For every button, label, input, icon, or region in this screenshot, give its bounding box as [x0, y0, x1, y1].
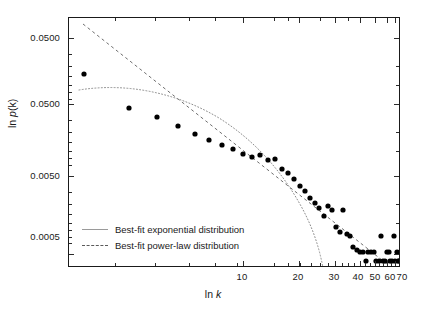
y-tick-minor [69, 54, 72, 55]
y-tick-minor [69, 223, 72, 224]
y-axis-title-prefix: ln [6, 117, 18, 128]
x-tick-minor [383, 263, 384, 266]
x-tick-minor [348, 263, 349, 266]
x-tick-major-top [335, 18, 336, 23]
y-tick-minor-right [396, 151, 399, 152]
y-tick-major-right [394, 38, 399, 39]
y-axis-title-variable: p [6, 111, 18, 117]
x-tick-minor [370, 263, 371, 266]
y-tick-major-right [394, 104, 399, 105]
x-tick-major-top [360, 18, 361, 23]
y-tick-minor [69, 142, 72, 143]
x-tick-major [360, 261, 361, 266]
x-tick-minor [328, 263, 329, 266]
data-point [321, 213, 326, 218]
y-tick-major [69, 104, 74, 105]
x-tick-minor [379, 263, 380, 266]
data-point [333, 224, 338, 229]
x-axis-title-variable: k [216, 288, 221, 300]
y-tick-label-1: 0.0500 [4, 98, 60, 109]
x-axis-title: ln k [0, 288, 426, 300]
y-tick-label-0: 0.0500 [4, 32, 60, 43]
x-tick-minor-top [348, 18, 349, 21]
y-tick-minor [69, 85, 72, 86]
data-point [340, 207, 345, 212]
y-tick-minor [69, 132, 72, 133]
y-tick-major [69, 38, 74, 39]
data-point [175, 123, 180, 128]
x-tick-label-40: 40 [349, 271, 367, 282]
y-tick-minor [69, 165, 72, 166]
x-tick-minor-top [155, 18, 156, 21]
y-tick-minor [69, 151, 72, 152]
x-tick-major [387, 261, 388, 266]
data-point [230, 146, 235, 151]
data-point [360, 249, 365, 254]
y-tick-minor-right [396, 223, 399, 224]
x-tick-major [243, 261, 244, 266]
legend-line-powerlaw-icon [82, 245, 108, 247]
x-tick-minor [115, 263, 116, 266]
data-point [329, 207, 334, 212]
x-tick-major-top [387, 18, 388, 23]
x-tick-major-top [299, 18, 300, 23]
x-tick-minor [354, 263, 355, 266]
x-tick-major-top [375, 18, 376, 23]
y-tick-major [69, 254, 74, 255]
x-tick-minor [391, 263, 392, 266]
data-point [81, 71, 86, 76]
data-point [307, 195, 312, 200]
data-point [297, 183, 302, 188]
y-tick-minor [69, 192, 72, 193]
x-tick-major-top [395, 18, 396, 23]
data-point [265, 157, 270, 162]
x-tick-minor-top [115, 18, 116, 21]
x-tick-major [395, 261, 396, 266]
data-point [386, 249, 391, 254]
data-point [316, 205, 321, 210]
y-tick-minor-right [396, 66, 399, 67]
y-tick-minor [69, 243, 72, 244]
y-tick-minor [69, 230, 72, 231]
x-tick-minor [300, 263, 301, 266]
y-tick-minor-right [396, 85, 399, 86]
data-point [240, 151, 245, 156]
x-tick-major [335, 261, 336, 266]
data-point [337, 229, 342, 234]
x-tick-minor-top [215, 18, 216, 21]
figure-container: ln p(k) ln k 0.0500 0.0500 0.0050 0.0005… [0, 0, 426, 310]
data-point [285, 170, 290, 175]
legend-label-powerlaw: Best-fit power-law distribution [115, 240, 239, 251]
y-tick-minor [69, 120, 72, 121]
x-tick-major-top [243, 18, 244, 23]
x-tick-major [375, 261, 376, 266]
x-tick-minor-top [288, 18, 289, 21]
data-point [312, 200, 317, 205]
x-tick-minor [189, 263, 190, 266]
x-tick-minor [274, 263, 275, 266]
x-tick-label-10: 10 [232, 271, 252, 282]
x-tick-minor [215, 263, 216, 266]
y-tick-minor [69, 76, 72, 77]
x-tick-label-20: 20 [288, 271, 308, 282]
y-tick-major-right [394, 176, 399, 177]
legend-line-exponential-icon [82, 229, 108, 231]
x-tick-minor [320, 263, 321, 266]
y-tick-minor [69, 158, 72, 159]
x-tick-minor [288, 263, 289, 266]
legend-item-powerlaw: Best-fit power-law distribution [82, 240, 244, 251]
x-tick-minor [342, 263, 343, 266]
data-point [126, 105, 131, 110]
data-point [378, 233, 383, 238]
y-tick-label-3: 0.0005 [4, 231, 60, 242]
data-point [249, 154, 254, 159]
y-tick-minor [69, 204, 72, 205]
data-point [272, 156, 277, 161]
y-tick-minor [69, 92, 72, 93]
data-point [279, 166, 284, 171]
legend-label-exponential: Best-fit exponential distribution [115, 224, 244, 235]
x-tick-minor-top [189, 18, 190, 21]
y-tick-minor [69, 214, 72, 215]
data-point [391, 233, 396, 238]
data-point [257, 152, 262, 157]
